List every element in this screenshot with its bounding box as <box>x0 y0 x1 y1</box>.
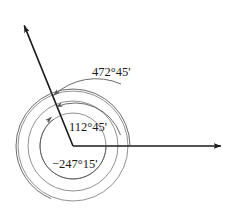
outer-angle-label: 472°45' <box>92 65 131 79</box>
angle-diagram-canvas: 472°45' 112°45' −247°15' <box>0 0 241 213</box>
outer-arc-tail <box>16 89 130 199</box>
inner-angle-label: −247°15' <box>52 157 98 171</box>
angle-diagram-figure: 472°45' 112°45' −247°15' <box>0 0 241 213</box>
middle-angle-label: 112°45' <box>69 120 107 134</box>
